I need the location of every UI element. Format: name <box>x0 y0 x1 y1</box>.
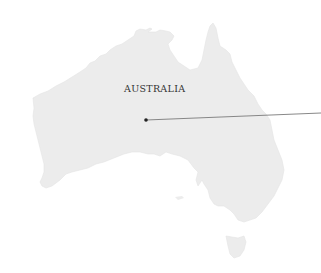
mainland-australia <box>33 23 284 222</box>
location-marker-dot[interactable] <box>144 118 148 122</box>
australia-map <box>0 0 321 273</box>
country-label-australia: AUSTRALIA <box>124 83 185 94</box>
tasmania <box>226 236 246 258</box>
kangaroo-island <box>175 196 184 200</box>
map-canvas <box>0 0 321 273</box>
